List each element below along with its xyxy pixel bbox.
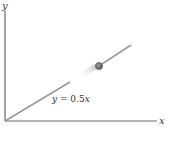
equation-label: y = 0.5x [51, 94, 90, 104]
motion-blur-trail [76, 63, 98, 79]
line-segment-upper [102, 45, 131, 64]
equation-var: x [85, 94, 90, 104]
x-axis-label: x [159, 115, 165, 126]
equation-eq: = 0.5 [57, 94, 85, 104]
y-axis-label: y [1, 0, 8, 11]
ball-icon [95, 62, 102, 69]
line-diagram: y x y = 0.5x [0, 0, 169, 141]
